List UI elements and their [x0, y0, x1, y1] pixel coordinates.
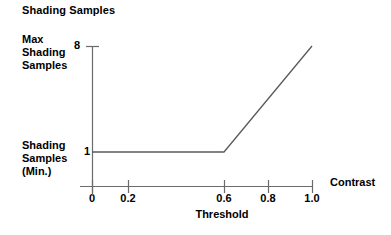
plot-area: [0, 0, 391, 235]
chart-figure: Shading Samples Max Shading Samples Shad…: [0, 0, 391, 235]
data-series-line: [92, 46, 312, 152]
